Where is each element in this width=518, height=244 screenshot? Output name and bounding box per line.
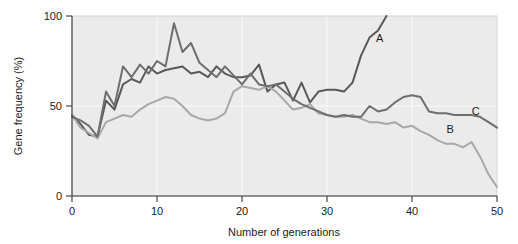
series-label-A: A [376,32,384,44]
x-tick-label-30: 30 [321,205,333,217]
x-tick-label-20: 20 [236,205,248,217]
y-tick-label-0: 0 [56,190,62,202]
x-tick-label-40: 40 [406,205,418,217]
y-tick-label-100: 100 [44,10,62,22]
series-label-B: B [447,123,454,135]
chart-figure: 0 50 100 Gene frequency (%) 0 10 20 30 4… [0,0,518,244]
x-axis-title: Number of generations [228,226,340,238]
y-tick-label-50: 50 [50,100,62,112]
x-tick-label-0: 0 [69,205,75,217]
x-tick-label-10: 10 [151,205,163,217]
x-tick-label-50: 50 [491,205,503,217]
y-axis-title: Gene frequency (%) [12,57,24,155]
series-label-C: C [472,105,480,117]
y-axis: 0 50 100 Gene frequency (%) [12,10,72,202]
gene-frequency-line-chart: 0 50 100 Gene frequency (%) 0 10 20 30 4… [0,0,518,244]
x-axis: 0 10 20 30 40 50 Number of generations [69,196,503,238]
